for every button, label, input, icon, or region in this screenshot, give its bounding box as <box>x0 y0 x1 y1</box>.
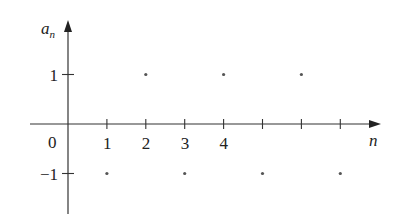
y-axis-arrow-icon <box>64 20 72 32</box>
data-point <box>222 73 225 76</box>
y-tick-label: −1 <box>40 165 58 184</box>
data-point <box>300 73 303 76</box>
x-tick-label: 3 <box>181 134 190 153</box>
x-tick-label: 4 <box>220 134 229 153</box>
data-point <box>105 172 108 175</box>
x-tick-label: 1 <box>103 134 112 153</box>
sequence-plot: 1234 1−1 an n 0 <box>0 0 398 224</box>
x-axis-arrow-icon <box>369 120 381 128</box>
origin-label: 0 <box>48 133 57 152</box>
y-axis-label: an <box>41 19 56 40</box>
y-tick-label: 1 <box>50 66 59 85</box>
data-point <box>183 172 186 175</box>
x-axis-label: n <box>369 131 378 150</box>
data-point <box>144 73 147 76</box>
data-point <box>261 172 264 175</box>
x-tick-label: 2 <box>142 134 151 153</box>
data-point <box>339 172 342 175</box>
